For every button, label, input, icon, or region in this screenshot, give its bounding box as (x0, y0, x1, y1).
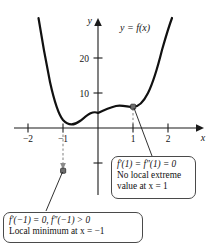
y-axis-label: y (87, 15, 93, 26)
y-axis-arrowhead (94, 18, 102, 26)
callout-inflection-point: f′(1) = f″(1) = 0 No local extreme value… (111, 156, 196, 199)
callout-minimum-line2: Local minimum at x = −1 (9, 226, 138, 237)
callout-minimum-line1: f′(−1) = 0, f″(−1) > 0 (9, 215, 138, 226)
figure-graph-of-f: −2 −1 1 2 20 10 y x y = f(x) f′(1) = f″(… (0, 0, 218, 248)
plot-area: −2 −1 1 2 20 10 y x y = f(x) (0, 0, 218, 248)
x-axis-arrowhead (196, 124, 204, 132)
leader-line-minimum (46, 172, 63, 211)
y-tick-label-10: 10 (80, 89, 90, 99)
callout-inflection-line1: f′(1) = f″(1) = 0 (117, 159, 191, 170)
x-tick-label-minus2: −2 (23, 134, 33, 144)
leader-line-inflection (134, 108, 152, 156)
callout-local-minimum: f′(−1) = 0, f″(−1) > 0 Local minimum at … (3, 212, 143, 243)
local-minimum-point-marker (61, 168, 66, 173)
y-tick-label-20: 20 (80, 54, 90, 64)
callout-inflection-line3: value at x = 1 (117, 181, 191, 192)
curve-label-y-equals-f-of-x: y = f(x) (119, 22, 151, 34)
callout-inflection-line2: No local extreme (117, 170, 191, 181)
x-tick-label-1: 1 (131, 134, 136, 144)
x-axis-label: x (200, 132, 206, 143)
inflection-point-marker (131, 104, 136, 109)
x-tick-label-2: 2 (166, 134, 171, 144)
curve-f-of-x (39, 18, 173, 124)
